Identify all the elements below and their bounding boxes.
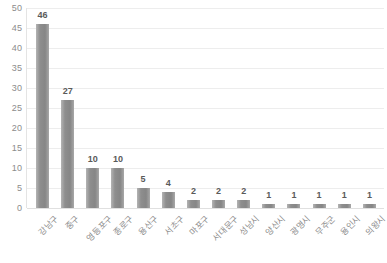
bar-value-label: 27 — [63, 87, 73, 96]
bar[interactable] — [86, 168, 99, 208]
x-slot: 무주군 — [306, 209, 331, 263]
y-tick-label: 5 — [17, 184, 22, 193]
bar-series: 462710105422211111 — [27, 8, 384, 208]
bar[interactable] — [262, 204, 275, 208]
bar-slot: 5 — [131, 8, 156, 208]
y-tick-label: 10 — [12, 164, 22, 173]
bar-slot: 10 — [80, 8, 105, 208]
x-slot: 영등포구 — [79, 209, 104, 263]
y-tick-label: 40 — [12, 44, 22, 53]
bar[interactable] — [36, 24, 49, 208]
bar-value-label: 2 — [191, 187, 196, 196]
bar-value-label: 10 — [113, 155, 123, 164]
x-slot: 중구 — [54, 209, 79, 263]
bar[interactable] — [313, 204, 326, 208]
x-slot: 서대문구 — [206, 209, 231, 263]
x-slot: 광명시 — [281, 209, 306, 263]
bar-value-label: 2 — [241, 187, 246, 196]
bar[interactable] — [212, 200, 225, 208]
x-axis: 강남구중구영등포구종로구용산구서초구마포구서대문구성남시양산시광명시무주군용인시… — [26, 209, 384, 263]
bar-value-label: 1 — [266, 191, 271, 200]
bar[interactable] — [338, 204, 351, 208]
bar-value-label: 1 — [342, 191, 347, 200]
bar-slot: 2 — [206, 8, 231, 208]
bar[interactable] — [137, 188, 150, 208]
y-tick-label: 30 — [12, 84, 22, 93]
bar-slot: 10 — [105, 8, 130, 208]
bar-chart: 05101520253035404550 462710105422211111 … — [0, 0, 387, 263]
bar-value-label: 2 — [216, 187, 221, 196]
x-tick-label: 의왕시 — [364, 214, 387, 237]
x-slot: 의왕시 — [357, 209, 382, 263]
x-slot: 용산구 — [130, 209, 155, 263]
bar-slot: 1 — [307, 8, 332, 208]
x-slot: 마포구 — [180, 209, 205, 263]
bar[interactable] — [187, 200, 200, 208]
x-slot: 성남시 — [231, 209, 256, 263]
bar-slot: 2 — [181, 8, 206, 208]
x-slot: 용인시 — [332, 209, 357, 263]
y-tick-label: 35 — [12, 64, 22, 73]
y-tick-label: 20 — [12, 124, 22, 133]
y-tick-label: 15 — [12, 144, 22, 153]
plot-area: 462710105422211111 — [26, 8, 384, 208]
bar-value-label: 1 — [291, 191, 296, 200]
bar-value-label: 1 — [317, 191, 322, 200]
bar-value-label: 46 — [38, 11, 48, 20]
x-slot: 서초구 — [155, 209, 180, 263]
bar-slot: 27 — [55, 8, 80, 208]
y-tick-label: 0 — [17, 204, 22, 213]
y-axis: 05101520253035404550 — [0, 0, 24, 211]
x-slot: 양산시 — [256, 209, 281, 263]
bar-slot: 1 — [357, 8, 382, 208]
bar-slot: 1 — [256, 8, 281, 208]
bar-slot: 4 — [156, 8, 181, 208]
bar-slot: 1 — [281, 8, 306, 208]
bar[interactable] — [237, 200, 250, 208]
x-tick-label: 중구 — [64, 214, 81, 231]
bar-value-label: 1 — [367, 191, 372, 200]
bar-value-label: 5 — [141, 175, 146, 184]
bar[interactable] — [111, 168, 124, 208]
y-tick-label: 45 — [12, 24, 22, 33]
y-tick-label: 25 — [12, 104, 22, 113]
x-slot: 강남구 — [29, 209, 54, 263]
x-slot: 종로구 — [105, 209, 130, 263]
bar[interactable] — [61, 100, 74, 208]
bar-value-label: 4 — [166, 179, 171, 188]
bar-slot: 1 — [332, 8, 357, 208]
y-tick-label: 50 — [12, 4, 22, 13]
bar[interactable] — [363, 204, 376, 208]
bar[interactable] — [287, 204, 300, 208]
bar-value-label: 10 — [88, 155, 98, 164]
bar-slot: 46 — [30, 8, 55, 208]
bar-slot: 2 — [231, 8, 256, 208]
bar[interactable] — [162, 192, 175, 208]
